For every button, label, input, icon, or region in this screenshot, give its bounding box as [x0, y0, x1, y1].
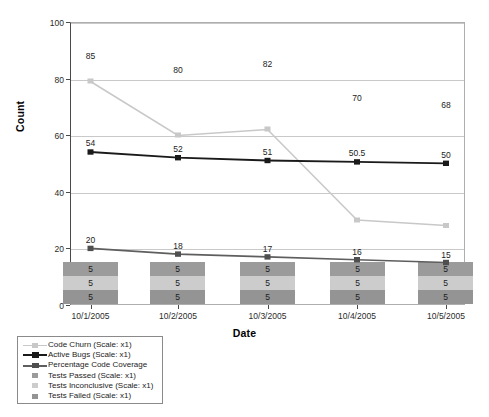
bar-segment-tests-failed: 5 [240, 290, 295, 304]
bar-value: 5 [265, 292, 270, 302]
legend-key-swatch-gray [22, 391, 48, 401]
legend-label: Tests Passed (Scale: x1) [48, 371, 136, 381]
bar-segment-tests-failed: 5 [150, 290, 205, 304]
bar-segment-tests-passed: 5 [418, 262, 473, 276]
bar-segment-tests-failed: 5 [330, 290, 385, 304]
bar-value: 5 [355, 292, 360, 302]
x-tick-label-4: 10/4/2005 [322, 311, 392, 321]
bar-segment-tests-passed: 5 [150, 262, 205, 276]
x-tick-label-5: 10/5/2005 [411, 311, 481, 321]
legend-key-line-light-gray [22, 340, 48, 350]
chart-container: Count 100 80 60 40 20 0 5 5 5 5 5 5 5 5 … [0, 0, 489, 417]
x-tick-label-1: 10/1/2005 [56, 311, 126, 321]
x-tick-mark-3 [268, 305, 269, 309]
bar-value: 5 [175, 278, 180, 288]
x-tick-mark-5 [446, 305, 447, 309]
y-tick-label-80: 80 [44, 75, 64, 85]
y-tick-mark-40 [66, 192, 70, 193]
legend-item-tests-failed[interactable]: Tests Failed (Scale: x1) [22, 391, 158, 401]
data-label-code-churn-2: 80 [160, 65, 196, 75]
legend-key-line-black [22, 350, 48, 360]
data-label-active-bugs-2: 52 [160, 144, 196, 154]
bar-segment-tests-inconclusive: 5 [418, 276, 473, 290]
bar-segment-tests-failed: 5 [63, 290, 118, 304]
gridline-100 [71, 23, 464, 24]
bar-stack-1: 5 5 5 [63, 262, 118, 305]
y-tick-label-60: 60 [44, 131, 64, 141]
bar-value: 5 [443, 264, 448, 274]
data-label-code-churn-4: 70 [339, 93, 375, 103]
y-tick-label-0: 0 [44, 301, 64, 311]
bar-segment-tests-inconclusive: 5 [63, 276, 118, 290]
y-tick-label-20: 20 [44, 244, 64, 254]
data-label-code-churn-3: 82 [250, 59, 286, 69]
y-tick-mark-80 [66, 79, 70, 80]
gridline-60 [71, 136, 464, 137]
legend-label: Percentage Code Coverage [48, 360, 147, 370]
data-label-active-bugs-5: 50 [428, 150, 464, 160]
data-label-code-coverage-5: 15 [428, 250, 464, 260]
bar-value: 5 [443, 292, 448, 302]
data-label-code-coverage-2: 18 [160, 241, 196, 251]
y-tick-mark-60 [66, 135, 70, 136]
legend-label: Active Bugs (Scale: x1) [48, 350, 131, 360]
bar-stack-5: 5 5 5 [418, 262, 473, 305]
legend-item-code-churn[interactable]: Code Churn (Scale: x1) [22, 340, 158, 350]
x-tick-label-3: 10/3/2005 [233, 311, 303, 321]
bar-segment-tests-failed: 5 [418, 290, 473, 304]
data-label-active-bugs-3: 51 [250, 147, 286, 157]
gridline-40 [71, 193, 464, 194]
bar-stack-4: 5 5 5 [330, 262, 385, 305]
gridline-80 [71, 80, 464, 81]
legend-key-swatch-mid-gray [22, 371, 48, 381]
bar-value: 5 [265, 278, 270, 288]
data-label-active-bugs-1: 54 [73, 138, 109, 148]
legend: Code Churn (Scale: x1) Active Bugs (Scal… [17, 336, 163, 404]
y-tick-mark-20 [66, 248, 70, 249]
data-label-code-churn-1: 85 [73, 51, 109, 61]
bar-value: 5 [443, 278, 448, 288]
y-tick-label-100: 100 [44, 18, 64, 28]
x-tick-mark-2 [178, 305, 179, 309]
data-label-code-coverage-4: 16 [339, 247, 375, 257]
data-label-code-coverage-1: 20 [73, 235, 109, 245]
y-tick-mark-100 [66, 22, 70, 23]
legend-item-tests-inconclusive[interactable]: Tests Inconclusive (Scale: x1) [22, 381, 158, 391]
x-tick-mark-1 [91, 305, 92, 309]
y-axis-title: Count [14, 101, 26, 132]
bar-segment-tests-passed: 5 [63, 262, 118, 276]
x-tick-mark-4 [357, 305, 358, 309]
bar-segment-tests-inconclusive: 5 [150, 276, 205, 290]
data-label-active-bugs-4: 50.5 [339, 148, 375, 158]
legend-key-swatch-light-gray [22, 381, 48, 391]
bar-value: 5 [88, 278, 93, 288]
y-tick-label-40: 40 [44, 188, 64, 198]
bar-value: 5 [355, 264, 360, 274]
data-label-code-churn-5: 68 [428, 100, 464, 110]
legend-key-line-dark-gray [22, 360, 48, 370]
bar-value: 5 [175, 292, 180, 302]
bar-segment-tests-inconclusive: 5 [240, 276, 295, 290]
bar-value: 5 [265, 264, 270, 274]
bar-stack-3: 5 5 5 [240, 262, 295, 305]
bar-value: 5 [88, 292, 93, 302]
bar-value: 5 [355, 278, 360, 288]
bar-segment-tests-passed: 5 [330, 262, 385, 276]
legend-label: Tests Inconclusive (Scale: x1) [48, 381, 153, 391]
x-tick-label-2: 10/2/2005 [143, 311, 213, 321]
legend-item-tests-passed[interactable]: Tests Passed (Scale: x1) [22, 371, 158, 381]
legend-item-active-bugs[interactable]: Active Bugs (Scale: x1) [22, 350, 158, 360]
bar-value: 5 [88, 264, 93, 274]
legend-label: Tests Failed (Scale: x1) [48, 391, 131, 401]
bar-segment-tests-passed: 5 [240, 262, 295, 276]
legend-label: Code Churn (Scale: x1) [48, 340, 132, 350]
bar-value: 5 [175, 264, 180, 274]
data-label-code-coverage-3: 17 [250, 244, 286, 254]
y-tick-mark-0 [66, 305, 70, 306]
legend-item-code-coverage[interactable]: Percentage Code Coverage [22, 360, 158, 370]
bar-segment-tests-inconclusive: 5 [330, 276, 385, 290]
bar-stack-2: 5 5 5 [150, 262, 205, 305]
